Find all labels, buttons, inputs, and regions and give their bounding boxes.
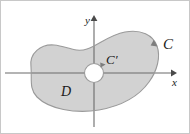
- inner-curve-label: C′: [106, 52, 118, 67]
- vector-field-region-diagram: C C′ D x y: [1, 1, 189, 133]
- figure-frame: C C′ D x y: [0, 0, 190, 134]
- x-axis-label: x: [171, 76, 177, 88]
- region-label: D: [60, 84, 71, 99]
- outer-curve-label: C: [163, 36, 174, 52]
- y-axis-arrowhead: [91, 15, 98, 21]
- y-axis-label: y: [84, 14, 90, 26]
